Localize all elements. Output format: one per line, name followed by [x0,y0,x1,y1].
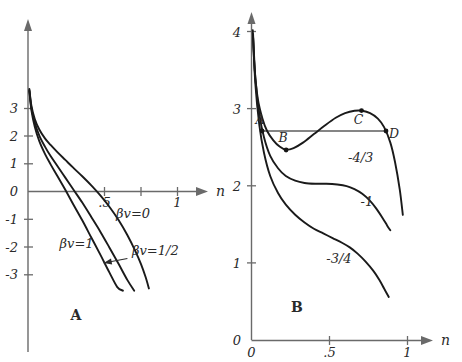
panel-b-ytick-2: 2 [232,179,241,194]
curve-label-beta-v-1: βv=1 [59,236,94,251]
curve-minus-three-quarters [253,36,389,297]
panel-b-ytick-3: 3 [233,102,241,117]
panel-b-letter: B [291,299,303,315]
panel-a-ytick-neg2: -2 [5,240,18,255]
curve-label-minus-three-quarters: -3/4 [326,251,351,266]
point-label-d: D [388,126,399,141]
panel-a-curves [29,89,149,291]
panel-a-letter: A [70,307,83,323]
panel-b-ytick-0: 0 [233,333,241,348]
panel-a-ytick-neg3: -3 [5,267,18,282]
panel-a-xtick-half: .5 [98,195,110,210]
curve-label-beta-v-half: βv=1/2 [131,243,179,258]
figure-container: 3 2 1 0 -1 -2 -3 .5 1 n βv= [0,0,462,362]
panel-a-ytick-3: 3 [10,101,18,116]
panel-a-ytick-neg1: -1 [5,212,18,227]
point-label-b: B [278,130,288,145]
panel-a: 3 2 1 0 -1 -2 -3 .5 1 n βv= [5,19,225,352]
panel-a-xtick-one: 1 [173,195,181,210]
curve-label-minus-four-thirds: -4/3 [348,150,373,165]
panel-b-ytick-1: 1 [233,256,241,271]
point-label-a: A [255,112,265,127]
figure-svg: 3 2 1 0 -1 -2 -3 .5 1 n βv= [0,0,462,362]
panel-a-ytick-1: 1 [10,156,18,171]
panel-a-xaxis-name: n [216,183,225,199]
curve-beta-v-0 [29,89,149,288]
point-marker-d [384,129,389,134]
point-label-c: C [354,112,364,127]
panel-a-ytick-2: 2 [9,129,18,144]
panel-b-x-axis [252,336,434,345]
panel-b: 4 3 2 1 0 0 .5 1 n [232,12,450,360]
point-marker-b [284,148,289,153]
panel-b-xtick-one: 1 [403,345,411,360]
panel-a-ytick-0: 0 [10,184,18,199]
point-marker-a [260,129,265,134]
curve-label-beta-v-0: βv=0 [115,206,150,221]
panel-b-xtick-half: .5 [323,345,335,360]
panel-b-xtick-0: 0 [247,345,255,360]
panel-a-y-axis [24,19,32,352]
panel-b-xaxis-name: n [441,332,450,348]
curve-label-minus-one: -1 [361,194,374,209]
panel-b-ytick-4: 4 [232,25,241,40]
